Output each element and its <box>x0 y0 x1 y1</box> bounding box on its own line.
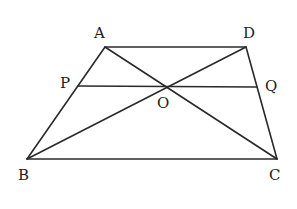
trapezoid-diagram: ADPQOBC <box>0 0 297 209</box>
segments <box>27 47 277 159</box>
point-label-q: Q <box>265 77 277 95</box>
point-label-c: C <box>269 166 280 184</box>
point-label-d: D <box>243 24 255 42</box>
point-label-o: O <box>157 94 169 112</box>
point-label-a: A <box>93 24 105 42</box>
point-label-p: P <box>60 74 70 92</box>
point-label-b: B <box>18 166 29 184</box>
labels: ADPQOBC <box>18 24 280 184</box>
segment-ab <box>27 47 105 159</box>
segment-bd <box>27 47 246 159</box>
segment-pq <box>78 86 257 87</box>
